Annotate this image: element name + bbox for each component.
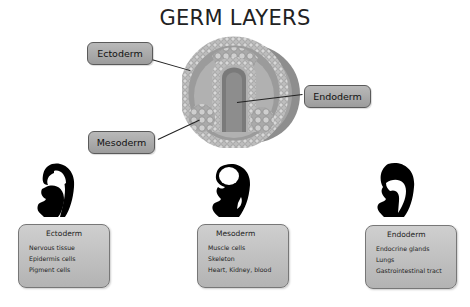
label-endoderm: Endoderm: [304, 85, 371, 108]
label-mesoderm: Mesoderm: [88, 131, 155, 154]
list-item: Heart, Kidney, blood: [208, 264, 271, 275]
info-box-ectoderm: Ectoderm Nervous tissue Epidermis cells …: [18, 224, 110, 288]
list-item: Epidermis cells: [29, 253, 76, 264]
label-ectoderm: Ectoderm: [87, 42, 153, 65]
list-item: Nervous tissue: [29, 242, 76, 253]
list-item: Endocrine glands: [376, 243, 442, 254]
list-item: Muscle cells: [208, 242, 271, 253]
info-box-heading: Endoderm: [366, 230, 456, 239]
embryo-cross-section-icon: [182, 36, 302, 148]
list-item: Lungs: [376, 254, 442, 265]
diagram-title: GERM LAYERS: [0, 6, 470, 30]
info-box-heading: Ectoderm: [19, 229, 109, 238]
list-item: Pigment cells: [29, 264, 76, 275]
info-box-mesoderm: Mesoderm Muscle cells Skeleton Heart, Ki…: [197, 224, 289, 288]
info-box-endoderm: Endoderm Endocrine glands Lungs Gastroin…: [365, 225, 457, 289]
list-item: Gastrointestinal tract: [376, 265, 442, 276]
fetus-ectoderm-icon: [32, 161, 78, 219]
list-item: Skeleton: [208, 253, 271, 264]
fetus-mesoderm-icon: [207, 161, 253, 219]
info-box-heading: Mesoderm: [198, 229, 288, 238]
fetus-endoderm-icon: [372, 161, 418, 219]
